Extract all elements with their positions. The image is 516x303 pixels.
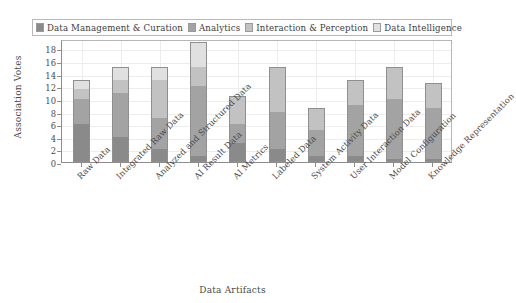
x-axis-labels: Raw DataIntegrated Raw DataAnalyzed and …: [0, 168, 465, 263]
y-tick-label-12: 12: [16, 83, 56, 93]
bar-segment-5-2: [269, 67, 286, 111]
y-tick-label-10: 10: [16, 96, 56, 106]
legend-swatch-icon-3: [373, 23, 381, 32]
bar-segment-6-2: [308, 108, 325, 130]
bar-segment-7-2: [347, 80, 364, 105]
bar-1[interactable]: [112, 67, 129, 162]
legend-label-3: Data Intelligence: [384, 23, 462, 33]
y-tick-label-2: 2: [16, 146, 56, 156]
chart-legend: Data Management & CurationAnalyticsInter…: [32, 19, 452, 36]
bar-segment-0-2: [73, 89, 90, 98]
bar-8[interactable]: [386, 67, 403, 162]
bar-5[interactable]: [269, 67, 286, 162]
y-tick-label-6: 6: [16, 121, 56, 131]
bar-segment-8-2: [386, 67, 403, 99]
bar-segment-0-0: [73, 124, 90, 162]
y-tick-label-14: 14: [16, 71, 56, 81]
legend-entry-3[interactable]: Data Intelligence: [373, 23, 462, 33]
bar-segment-1-2: [112, 80, 129, 93]
y-axis: Association Votes 024681012141618: [0, 40, 61, 164]
legend-label-1: Analytics: [199, 23, 240, 33]
legend-label-0: Data Management & Curation: [47, 23, 183, 33]
legend-entry-0[interactable]: Data Management & Curation: [36, 23, 183, 33]
bar-segment-1-1: [112, 93, 129, 137]
bar-segment-9-2: [425, 83, 442, 108]
x-axis-title: Data Artifacts: [0, 285, 465, 295]
legend-entry-2[interactable]: Interaction & Perception: [245, 23, 368, 33]
plot-area: [61, 40, 452, 163]
bar-segment-0-1: [73, 99, 90, 124]
legend-swatch-icon-0: [36, 23, 44, 32]
bar-segment-2-2: [151, 80, 168, 118]
y-tick-label-4: 4: [16, 134, 56, 144]
bar-segment-1-3: [112, 67, 129, 80]
bar-segment-3-3: [190, 42, 207, 67]
bar-segment-2-3: [151, 67, 168, 80]
bar-segment-3-2: [190, 67, 207, 86]
bar-segment-0-3: [73, 80, 90, 89]
legend-swatch-icon-1: [188, 23, 196, 32]
legend-swatch-icon-2: [245, 23, 253, 32]
bar-segment-5-1: [269, 112, 286, 150]
legend-entry-1[interactable]: Analytics: [188, 23, 240, 33]
y-tick-label-8: 8: [16, 109, 56, 119]
legend-label-2: Interaction & Perception: [256, 23, 368, 33]
bar-0[interactable]: [73, 80, 90, 162]
bar-segment-1-0: [112, 137, 129, 162]
y-tick-label-18: 18: [16, 45, 56, 55]
y-tick-label-16: 16: [16, 58, 56, 68]
